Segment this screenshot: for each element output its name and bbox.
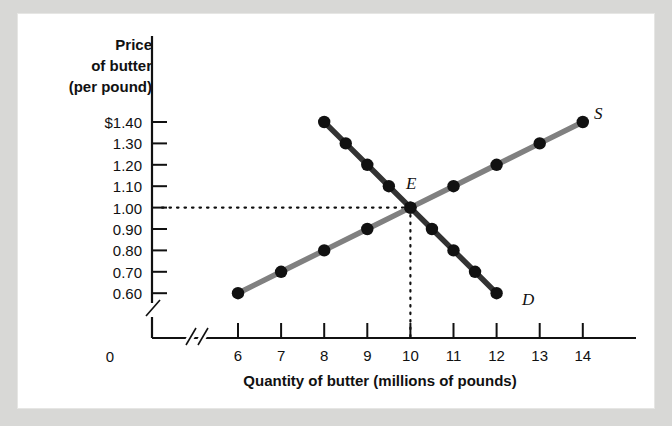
x-tick-label: 14 — [568, 348, 598, 363]
y-axis-title: Priceof butter(per pound) — [44, 34, 152, 97]
y-tick-label: 0.70 — [54, 265, 142, 280]
y-tick-label: 1.00 — [54, 201, 142, 216]
x-tick-label: 10 — [395, 348, 425, 363]
y-axis-title-line: (per pound) — [44, 76, 152, 97]
x-axis-title: Quantity of butter (millions of pounds) — [150, 372, 610, 389]
y-tick-label: 1.10 — [54, 179, 142, 194]
y-tick-label: 1.20 — [54, 158, 142, 173]
x-tick-label: 13 — [525, 348, 555, 363]
x-tick-label: 7 — [266, 348, 296, 363]
x-tick-label: 11 — [439, 348, 469, 363]
y-tick-label: 0.90 — [54, 222, 142, 237]
supply-curve-label: S — [594, 104, 603, 124]
y-axis-title-line: of butter — [44, 55, 152, 76]
y-tick-label: $1.40 — [54, 115, 142, 130]
x-tick-label: 8 — [309, 348, 339, 363]
y-tick-label: 1.30 — [54, 136, 142, 151]
demand-curve-label: D — [522, 290, 534, 310]
origin-label: 0 — [95, 348, 125, 365]
curve-series — [232, 116, 589, 300]
x-tick-label: 12 — [482, 348, 512, 363]
y-axis-ticks — [152, 122, 167, 293]
x-tick-label: 9 — [352, 348, 382, 363]
x-tick-label: 6 — [223, 348, 253, 363]
y-tick-label: 0.80 — [54, 243, 142, 258]
equilibrium-label: E — [406, 174, 416, 194]
y-tick-label: 0.60 — [54, 286, 142, 301]
y-axis-title-line: Price — [44, 34, 152, 55]
